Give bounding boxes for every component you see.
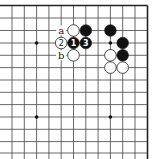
black-stone-icon [117,37,129,49]
black-stone-icon [117,50,129,62]
star-point-icon [109,115,113,119]
move-number: 2 [59,39,64,48]
black-stone-move-3: 3 [80,37,92,49]
white-stone [68,50,80,62]
white-stone [105,62,117,74]
black-stone-icon [80,25,92,37]
star-point-icon [109,41,113,45]
black-stone [105,25,117,37]
move-number: 3 [83,39,89,48]
star-point-icon [35,115,39,119]
move-number: 1 [71,39,77,48]
white-stone [105,50,117,62]
black-stone [80,25,92,37]
point-label-b: b [56,50,66,61]
svg-text:b: b [58,50,64,61]
point-label-a: a [56,25,66,36]
black-stone-icon [105,25,117,37]
white-stone-icon [68,50,80,62]
white-stone [68,25,80,37]
star-point-icon [35,41,39,45]
white-stone-icon [105,50,117,62]
white-stone [117,62,129,74]
white-stone-icon [68,25,80,37]
black-stone-move-1: 1 [68,37,80,49]
stones: 213 [55,25,128,74]
black-stone [117,50,129,62]
black-stone [117,37,129,49]
svg-text:a: a [58,25,64,36]
white-stone-icon [117,62,129,74]
go-board: ab 213 [0,0,156,159]
white-stone-icon [105,62,117,74]
white-stone-move-2: 2 [55,37,67,49]
